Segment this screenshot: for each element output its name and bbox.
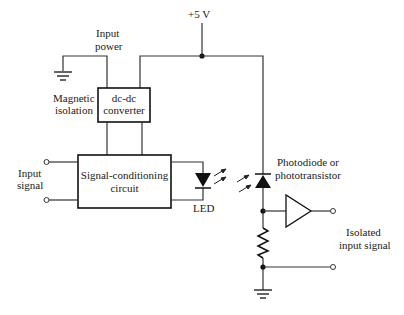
photodiode-label: Photodiode or [277, 156, 339, 168]
isolated-output-label: Isolated [346, 226, 381, 238]
led-wire-top [171, 162, 203, 173]
signal-conditioning-label: Signal-conditioning [81, 169, 169, 181]
isolated-output-label-2: input signal [339, 239, 391, 251]
output-terminal-bottom [331, 265, 336, 270]
magnetic-isolation-label-2: isolation [55, 104, 93, 116]
magnetic-isolation-label: Magnetic [53, 92, 95, 104]
buffer-amplifier-icon [286, 195, 311, 227]
circuit-diagram: +5 V Input power Magnetic isolation dc-d… [0, 0, 404, 315]
input-terminal-bottom [44, 198, 49, 203]
supply-label: +5 V [188, 8, 210, 20]
signal-conditioning-label-2: circuit [110, 182, 138, 194]
output-terminal-top [331, 209, 336, 214]
input-signal-label: Input [18, 167, 41, 179]
input-signal-label-2: signal [17, 179, 43, 191]
light-emission-arrows-icon [214, 169, 251, 192]
dcdc-label: dc-dc [112, 92, 137, 104]
led-icon [195, 173, 211, 188]
ground-icon-bottom [254, 290, 272, 298]
led-wire-bottom [171, 188, 203, 200]
dcdc-label-2: converter [103, 104, 145, 116]
photodiode-icon [255, 174, 271, 188]
input-terminal-top [44, 160, 49, 165]
input-power-label-2: power [95, 40, 123, 52]
ground-icon [54, 72, 72, 80]
photodiode-label-2: phototransistor [275, 169, 341, 181]
led-label: LED [193, 202, 214, 214]
input-power-label: Input [96, 27, 119, 39]
